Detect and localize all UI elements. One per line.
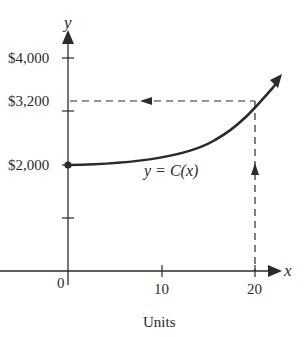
y-axis-arrow-icon xyxy=(62,30,74,44)
y-tick-label-2000: $2,000 xyxy=(8,158,49,173)
x-tick-label-10: 10 xyxy=(154,282,169,297)
start-point-dot xyxy=(64,161,71,168)
x-axis-symbol: x xyxy=(284,262,292,279)
y-tick-label-4000: $4,000 xyxy=(8,51,49,66)
dashed-guides xyxy=(70,97,259,271)
x-tick-label-0: 0 xyxy=(57,276,65,291)
chart-figure: y x $4,000 $3,200 $2,000 0 10 20 Units y… xyxy=(0,0,304,337)
y-tick-label-3200: $3,200 xyxy=(8,94,49,109)
x-axis xyxy=(0,265,282,277)
up-arrow-icon xyxy=(251,163,259,175)
x-tick-label-20: 20 xyxy=(247,282,262,297)
x-axis-title: Units xyxy=(143,315,176,330)
left-arrow-icon xyxy=(140,97,152,105)
cost-curve xyxy=(64,74,282,169)
y-axis xyxy=(62,30,74,285)
y-axis-symbol: y xyxy=(64,14,72,31)
curve-arrow-icon xyxy=(270,74,282,88)
x-axis-arrow-icon xyxy=(268,265,282,277)
curve-label: y = C(x) xyxy=(144,163,198,179)
